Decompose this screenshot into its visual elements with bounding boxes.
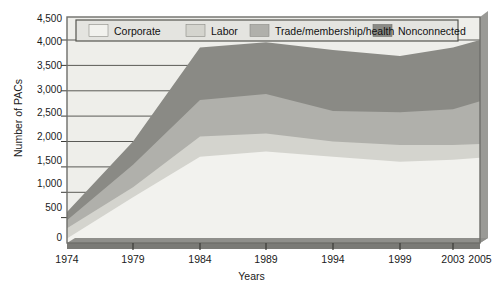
legend-swatch-labor bbox=[186, 25, 205, 37]
x-tick-1989: 1989 bbox=[242, 253, 290, 265]
x-tick-1984: 1984 bbox=[176, 253, 224, 265]
legend-label-labor: Labor bbox=[211, 25, 238, 37]
x-tick-1979: 1979 bbox=[109, 253, 157, 265]
legend-label-corporate: Corporate bbox=[114, 25, 161, 37]
x-tick-2005: 2005 bbox=[456, 253, 503, 265]
base-slab-top bbox=[67, 238, 488, 243]
legend-swatch-corporate bbox=[89, 25, 108, 37]
x-tick-1999: 1999 bbox=[376, 253, 424, 265]
legend-label-nonconnected: Nonconnected bbox=[398, 25, 466, 37]
x-axis-title: Years bbox=[0, 270, 503, 282]
base-slab-front bbox=[67, 243, 480, 249]
x-tick-1974: 1974 bbox=[43, 253, 91, 265]
y-axis-ticks bbox=[61, 40, 67, 218]
plot-svg bbox=[0, 0, 503, 288]
x-tick-1994: 1994 bbox=[309, 253, 357, 265]
legend-swatch-trade bbox=[250, 25, 269, 37]
legend-label-trade: Trade/membership/health bbox=[275, 25, 394, 37]
stacked-area-chart: Number of PACs 4,500 4,000 3,500 3,000 2… bbox=[0, 0, 503, 288]
frame-shadow-right bbox=[480, 11, 488, 243]
